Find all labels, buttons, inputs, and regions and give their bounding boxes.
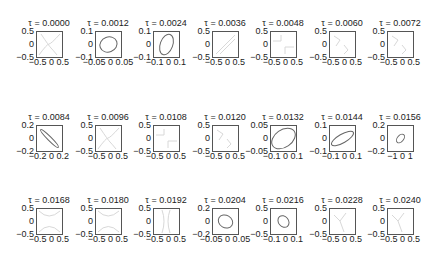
y-tick-label: 0.1	[117, 27, 151, 36]
y-tick-label: 0	[59, 217, 93, 226]
y-tick-label: 0.5	[0, 204, 34, 213]
y-tick-label: 0.5	[59, 121, 93, 130]
y-tick-label: 0	[117, 40, 151, 49]
subplot-axes	[387, 208, 414, 235]
y-tick-label: 0	[59, 134, 93, 143]
y-tick-label: 0.5	[234, 27, 268, 36]
y-tick-label: 0	[0, 40, 34, 49]
y-tick-label: 0	[293, 217, 327, 226]
y-tick-label: 0.5	[176, 121, 210, 130]
y-tick-label: 0.1	[293, 121, 327, 130]
plot-curve	[388, 32, 413, 57]
x-tick-labels: −1 0 1	[370, 152, 430, 161]
plot-curve	[388, 209, 413, 234]
y-tick-label: 0.5	[234, 204, 268, 213]
y-tick-label: 0	[351, 134, 385, 143]
plot-curve	[388, 126, 413, 151]
y-tick-label: 0.5	[293, 27, 327, 36]
y-tick-label: 0.5	[293, 204, 327, 213]
y-tick-label: 0	[59, 40, 93, 49]
y-tick-label: 0	[0, 217, 34, 226]
y-tick-label: 0	[293, 40, 327, 49]
y-tick-label: 0	[0, 134, 34, 143]
y-tick-label: 0.2	[351, 121, 385, 130]
y-tick-label: 0.5	[59, 204, 93, 213]
y-tick-label: 0.05	[234, 121, 268, 130]
y-tick-label: 0.5	[176, 27, 210, 36]
y-tick-label: 0	[234, 40, 268, 49]
y-tick-label: 0	[234, 134, 268, 143]
y-tick-label: 0.5	[117, 204, 151, 213]
y-tick-label: 0	[234, 217, 268, 226]
y-tick-label: 0	[117, 134, 151, 143]
subplot-axes	[387, 125, 414, 152]
x-tick-labels: −0.5 0 0.5	[370, 235, 430, 244]
y-tick-label: 0	[176, 134, 210, 143]
y-tick-label: 0.5	[117, 121, 151, 130]
y-tick-label: 0.1	[59, 27, 93, 36]
y-tick-label: 0.5	[0, 27, 34, 36]
y-tick-label: 0	[176, 40, 210, 49]
y-tick-label: 0.5	[351, 27, 385, 36]
y-tick-label: 0.2	[0, 121, 34, 130]
y-tick-label: 0	[351, 40, 385, 49]
x-tick-labels: −0.5 0 0.5	[370, 58, 430, 67]
subplot-axes	[387, 31, 414, 58]
y-tick-label: 0	[293, 134, 327, 143]
y-tick-label: 0.2	[176, 204, 210, 213]
y-tick-label: 0	[351, 217, 385, 226]
y-tick-label: 0	[117, 217, 151, 226]
y-tick-label: 0.5	[351, 204, 385, 213]
y-tick-label: 0	[176, 217, 210, 226]
